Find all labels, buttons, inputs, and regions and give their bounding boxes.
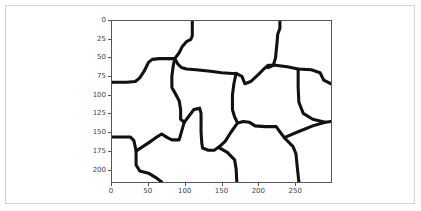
y-tick-label: 25 [76, 35, 106, 43]
boundary-line-right-diagonal-up [284, 121, 331, 137]
y-tick-label: 125 [76, 109, 106, 117]
boundary-line-center-bottom-down [219, 147, 237, 182]
x-tick-mark [185, 183, 186, 186]
x-tick-label: 100 [173, 187, 197, 195]
boundary-line-left-lower-horizontal [112, 122, 184, 151]
x-tick-label: 0 [99, 187, 123, 195]
x-tick-label: 50 [136, 187, 160, 195]
boundary-line-upper-right-horizontal [236, 65, 331, 83]
x-tick-mark [295, 183, 296, 186]
y-tick-label: 175 [76, 147, 106, 155]
y-tick-label: 150 [76, 128, 106, 136]
x-tick-mark [258, 183, 259, 186]
boundary-line-center-inner-loop [184, 108, 218, 150]
x-tick-label: 150 [210, 187, 234, 195]
x-tick-mark [222, 183, 223, 186]
y-tick-label: 200 [76, 166, 106, 174]
boundary-image [112, 21, 331, 182]
x-tick-label: 250 [283, 187, 307, 195]
y-tick-label: 75 [76, 72, 106, 80]
boundary-line-center-right-vertical [232, 73, 237, 122]
plot-area [111, 20, 332, 183]
y-tick-label: 50 [76, 53, 106, 61]
boundary-line-top-right-vertical [268, 21, 280, 68]
x-tick-mark [148, 183, 149, 186]
boundary-line-upper-middle-horizontal [175, 59, 236, 74]
y-tick-label: 0 [76, 16, 106, 24]
boundary-line-mid-right-horizontal [238, 121, 299, 182]
boundary-line-bottom-left-curve [136, 151, 162, 182]
boundary-line-center-bottom-diagonal [219, 123, 238, 147]
boundary-line-top-left-boundary [112, 59, 169, 83]
x-tick-mark [111, 183, 112, 186]
x-tick-label: 200 [246, 187, 270, 195]
boundary-line-top-center-vertical [169, 21, 192, 59]
y-tick-label: 100 [76, 91, 106, 99]
